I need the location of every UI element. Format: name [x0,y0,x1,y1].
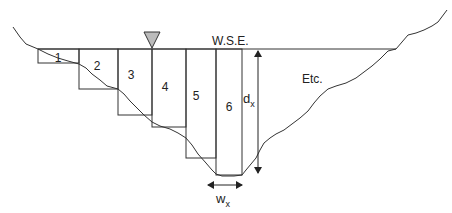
width-label: wx [215,191,230,209]
segment-5 [186,49,216,158]
segment-label-6: 6 [226,100,233,114]
water-surface-elevation-label: W.S.E. [212,34,249,48]
segment-label-1: 1 [55,51,62,65]
segments [38,49,242,175]
segment-3 [118,49,152,115]
segment-4 [152,49,186,127]
continuation-label: Etc. [302,72,323,86]
depth-label: dx [243,91,255,109]
water-surface-triangle-icon [144,32,160,48]
segment-label-4: 4 [162,80,169,94]
segment-label-2: 2 [94,59,101,73]
segment-label-3: 3 [128,68,135,82]
segment-label-5: 5 [193,89,200,103]
cross-section-diagram: 1 2 3 4 5 6 W.S.E. Etc. dx wx [0,0,452,213]
